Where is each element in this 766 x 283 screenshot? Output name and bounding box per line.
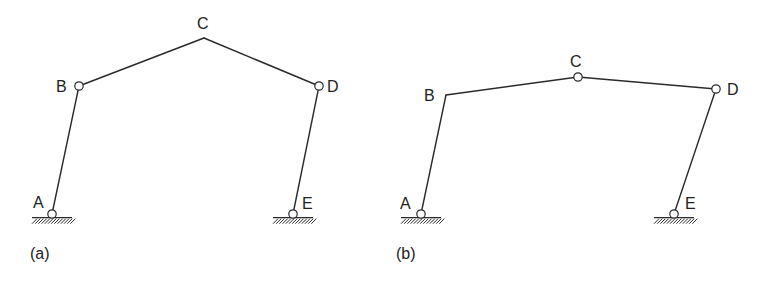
node-label-c: C [570, 53, 582, 70]
ground-support-icon [654, 218, 697, 224]
hinge-icon [289, 210, 297, 218]
hinge-icon [75, 82, 83, 90]
member-cd [578, 77, 716, 89]
ground-support-icon [273, 218, 316, 224]
member-bc [79, 38, 204, 86]
node-label-d: D [327, 78, 339, 95]
node-label-b: B [424, 87, 435, 104]
ground-support-icon [401, 218, 444, 224]
member-bc [446, 77, 578, 95]
hinge-icon [48, 210, 56, 218]
hinge-icon [712, 85, 720, 93]
node-label-a: A [33, 194, 44, 211]
member-ab [52, 86, 79, 214]
ground-support-icon [32, 218, 75, 224]
hinge-icon [417, 210, 425, 218]
hinge-icon [574, 73, 582, 81]
node-label-b: B [56, 78, 67, 95]
member-cd [204, 38, 319, 86]
node-label-d: D [727, 81, 739, 98]
hinge-icon [315, 82, 323, 90]
figure-b-frame: ABCDE(b) [396, 53, 739, 262]
frame-diagrams: ABCDE(a) ABCDE(b) [0, 0, 766, 283]
figure-caption: (a) [30, 245, 50, 262]
member-ab [421, 95, 446, 214]
hinge-icon [670, 210, 678, 218]
node-label-a: A [400, 195, 411, 212]
node-label-c: C [197, 15, 209, 32]
node-label-e: E [302, 195, 313, 212]
figure-a-frame: ABCDE(a) [30, 15, 339, 262]
figure-caption: (b) [396, 245, 416, 262]
node-label-e: E [685, 195, 696, 212]
